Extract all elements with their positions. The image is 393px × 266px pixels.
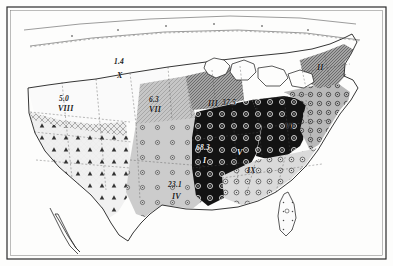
region-fill-atlantic xyxy=(318,134,356,184)
region-value-I: 68.3 xyxy=(196,144,210,152)
region-value-IV: 23.1 xyxy=(168,181,182,189)
region-value-III: 37.5 xyxy=(222,99,236,107)
baja-peninsula xyxy=(55,214,80,252)
map-canvas xyxy=(0,0,393,266)
region-value-VIII: 5.0 xyxy=(59,95,69,103)
region-label-VIII: VIII xyxy=(58,105,73,113)
region-label-X: X xyxy=(117,72,123,80)
region-label-IV: IV xyxy=(172,193,181,201)
baja-outline-inner xyxy=(50,208,78,254)
canada-border xyxy=(24,16,360,47)
region-label-I: I xyxy=(203,157,206,165)
region-label-III: III xyxy=(208,100,218,108)
region-label-V: V xyxy=(237,149,243,157)
region-label-VI: VI xyxy=(285,123,294,131)
region-value-X: 1.4 xyxy=(114,58,124,66)
region-value-VII: 6.3 xyxy=(149,96,159,104)
map-figure: 1.4 X 5.0 VIII 6.3 VII III 37.5 II 68.3 … xyxy=(0,0,393,266)
florida-peninsula xyxy=(278,192,296,236)
region-fills xyxy=(26,44,356,224)
region-label-VII: VII xyxy=(149,106,161,114)
region-label-II: II xyxy=(317,64,324,72)
region-label-IX: IX xyxy=(247,167,256,175)
